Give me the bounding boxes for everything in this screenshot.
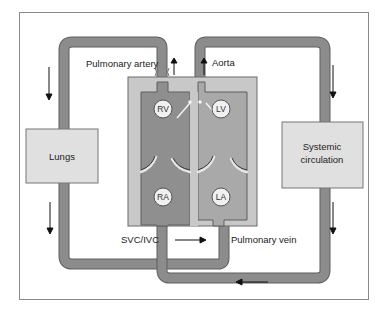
lungs-label: Lungs — [49, 151, 75, 162]
circulation-label: circulation — [301, 154, 344, 165]
ra-label: RA — [157, 192, 169, 202]
chamber-ra: RA — [154, 188, 172, 206]
circulation-diagram: RV LV RA LA Lungs Systemic circulation P… — [0, 0, 384, 320]
lungs-box: Lungs — [26, 129, 98, 183]
septum — [190, 92, 198, 226]
pulmonary-artery-label: Pulmonary artery — [86, 58, 159, 69]
rv-label: RV — [157, 104, 169, 114]
aortic-valve-dot — [198, 100, 202, 104]
la-label: LA — [216, 192, 227, 202]
pulmonary-valve-dot — [188, 100, 192, 104]
aorta-label: Aorta — [212, 57, 235, 68]
pulmonary-vein-label: Pulmonary vein — [231, 234, 296, 245]
lv-label: LV — [216, 104, 226, 114]
chamber-lv: LV — [212, 100, 230, 118]
systemic-circulation-box: Systemic circulation — [282, 122, 363, 188]
svc-ivc-label: SVC/IVC — [121, 234, 159, 245]
chamber-rv: RV — [154, 100, 172, 118]
systemic-label: Systemic — [303, 141, 342, 152]
chamber-la: LA — [212, 188, 230, 206]
